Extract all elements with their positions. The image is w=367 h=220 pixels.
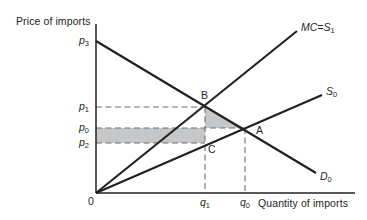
tick-label-q1-text: q bbox=[200, 196, 206, 208]
tick-label-p0-sub: 0 bbox=[85, 126, 89, 135]
tick-label-p2-text: p bbox=[79, 136, 85, 148]
tick-label-p1-text: p bbox=[79, 100, 85, 112]
point-label-c: C bbox=[208, 144, 216, 155]
tick-label-p1-sub: 1 bbox=[85, 105, 89, 114]
supply-demand-diagram: Price of imports Quantity of imports 0 p… bbox=[0, 0, 367, 220]
origin-label: 0 bbox=[88, 196, 94, 207]
x-axis-title: Quantity of imports bbox=[258, 198, 348, 209]
curve-label-mc-s1-sub: 1 bbox=[330, 26, 334, 35]
tick-label-q0-text: q bbox=[240, 196, 246, 208]
tick-label-p1: p1 bbox=[79, 101, 89, 112]
tick-label-q1-sub: 1 bbox=[206, 201, 210, 210]
curve-label-s0-text: S bbox=[326, 85, 333, 97]
tick-label-p2-sub: 2 bbox=[85, 141, 89, 150]
y-axis-title: Price of imports bbox=[16, 16, 91, 27]
supply-curve-mc-s1 bbox=[96, 31, 297, 193]
point-label-b: B bbox=[201, 90, 208, 101]
curve-label-d0-text: D bbox=[320, 170, 328, 182]
curve-label-mc-s1: MC=S1 bbox=[301, 22, 335, 33]
tick-label-p3-sub: 3 bbox=[85, 39, 89, 48]
curve-label-mc-s1-text: MC=S bbox=[301, 21, 330, 33]
tick-label-p0-text: p bbox=[79, 121, 85, 133]
curve-label-d0-sub: 0 bbox=[328, 175, 332, 184]
curve-label-s0: S0 bbox=[326, 86, 337, 97]
tick-label-p3-text: p bbox=[79, 34, 85, 46]
diagram-canvas bbox=[0, 0, 367, 220]
point-label-a: A bbox=[256, 125, 263, 136]
tick-label-p0: p0 bbox=[79, 122, 89, 133]
terms-of-trade-rectangle bbox=[96, 128, 205, 143]
tick-label-q0: q0 bbox=[240, 197, 250, 208]
curve-label-d0: D0 bbox=[320, 171, 332, 182]
tick-label-q0-sub: 0 bbox=[246, 201, 250, 210]
tick-label-q1: q1 bbox=[200, 197, 210, 208]
tick-label-p3: p3 bbox=[79, 35, 89, 46]
tick-label-p2: p2 bbox=[79, 137, 89, 148]
curve-label-s0-sub: 0 bbox=[333, 90, 337, 99]
